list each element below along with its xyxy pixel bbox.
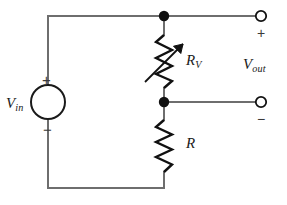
variable-resistor-symbol bbox=[145, 35, 183, 88]
wire-group bbox=[48, 16, 256, 188]
resistor-zigzag-rv bbox=[156, 35, 172, 88]
terminal-output-negative bbox=[256, 97, 266, 107]
label-vout: Vout bbox=[243, 57, 266, 72]
label-rv-base: R bbox=[186, 52, 195, 68]
label-variable-resistor: RV bbox=[186, 53, 202, 68]
terminal-output-positive bbox=[256, 11, 266, 21]
label-r-base: R bbox=[186, 135, 195, 151]
output-plus-sign: + bbox=[257, 26, 265, 40]
label-vout-subscript: out bbox=[252, 63, 266, 74]
source-plus-sign: + bbox=[42, 72, 51, 87]
label-vin: Vin bbox=[6, 96, 24, 111]
output-minus-sign: − bbox=[257, 112, 265, 126]
resistor-zigzag-r bbox=[156, 120, 172, 172]
schematic-canvas bbox=[0, 0, 287, 205]
label-rv-subscript: V bbox=[195, 59, 201, 70]
label-vout-base: V bbox=[243, 56, 252, 72]
label-vin-subscript: in bbox=[15, 102, 23, 113]
label-fixed-resistor: R bbox=[186, 136, 195, 151]
voltage-source-symbol bbox=[31, 85, 65, 119]
circuit-diagram: Vin Vout RV R + − + − bbox=[0, 0, 287, 205]
source-minus-sign: − bbox=[43, 122, 52, 137]
junction-dot-top bbox=[159, 11, 169, 21]
label-vin-base: V bbox=[6, 95, 15, 111]
junction-dot-mid bbox=[159, 97, 169, 107]
